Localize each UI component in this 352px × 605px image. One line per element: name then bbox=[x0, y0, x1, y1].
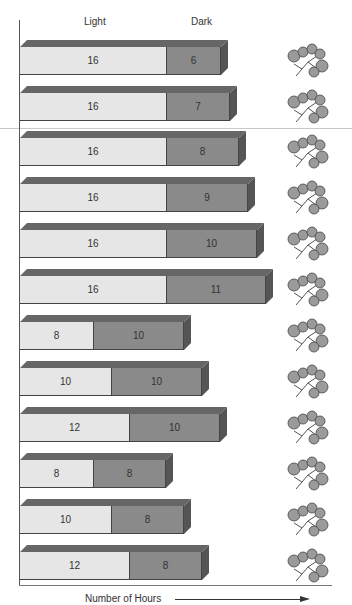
plant-icon bbox=[286, 225, 330, 263]
bar-front: 168 bbox=[20, 138, 239, 166]
light-segment: 16 bbox=[20, 138, 166, 166]
bar-side-face bbox=[248, 177, 256, 213]
bar-front: 128 bbox=[20, 552, 202, 580]
bar-front: 810 bbox=[20, 322, 184, 350]
header-dark: Dark bbox=[191, 16, 212, 27]
dark-segment: 10 bbox=[93, 322, 184, 350]
bar-top-face bbox=[20, 131, 246, 138]
bar-front: 167 bbox=[20, 93, 230, 121]
dark-segment: 7 bbox=[166, 93, 230, 121]
header-light: Light bbox=[84, 16, 106, 27]
bar-top-face bbox=[20, 499, 191, 506]
dark-segment: 9 bbox=[166, 184, 248, 212]
dark-segment: 10 bbox=[166, 230, 257, 258]
plant-icon bbox=[286, 317, 330, 355]
light-segment: 16 bbox=[20, 93, 166, 121]
bar-front: 1010 bbox=[20, 368, 202, 396]
arrow-right-icon bbox=[300, 596, 310, 602]
dark-segment: 11 bbox=[166, 276, 266, 304]
plant-icon bbox=[286, 88, 330, 126]
dark-segment: 6 bbox=[166, 47, 221, 75]
plant-icon bbox=[286, 179, 330, 217]
light-segment: 12 bbox=[20, 414, 129, 442]
light-segment: 16 bbox=[20, 230, 166, 258]
light-segment: 8 bbox=[20, 460, 93, 488]
bar-top-face bbox=[20, 223, 264, 230]
bar-top-face bbox=[20, 361, 209, 368]
bar-side-face bbox=[239, 131, 247, 167]
plant-icon bbox=[286, 547, 330, 585]
bar-side-face bbox=[266, 269, 274, 305]
light-segment: 16 bbox=[20, 276, 166, 304]
light-segment: 16 bbox=[20, 47, 166, 75]
dark-segment: 8 bbox=[129, 552, 202, 580]
bar-side-face bbox=[202, 361, 210, 397]
plant-icon bbox=[286, 409, 330, 447]
bar-side-face bbox=[184, 499, 192, 535]
bar-top-face bbox=[20, 407, 227, 414]
light-segment: 10 bbox=[20, 368, 111, 396]
scan-line bbox=[0, 128, 352, 129]
bar-side-face bbox=[166, 453, 174, 489]
light-segment: 12 bbox=[20, 552, 129, 580]
bar-side-face bbox=[257, 223, 265, 259]
bar-side-face bbox=[221, 40, 229, 76]
bar-top-face bbox=[20, 40, 228, 47]
dark-segment: 8 bbox=[93, 460, 166, 488]
arrow-line bbox=[175, 599, 305, 600]
light-segment: 10 bbox=[20, 506, 111, 534]
bar-top-face bbox=[20, 269, 273, 276]
bar-front: 1210 bbox=[20, 414, 220, 442]
bar-front: 1610 bbox=[20, 230, 257, 258]
plant-icon bbox=[286, 42, 330, 80]
plant-icon bbox=[286, 271, 330, 309]
dark-segment: 10 bbox=[129, 414, 220, 442]
light-segment: 8 bbox=[20, 322, 93, 350]
dark-segment: 10 bbox=[111, 368, 202, 396]
plant-icon bbox=[286, 501, 330, 539]
plant-icon bbox=[286, 363, 330, 401]
bar-top-face bbox=[20, 177, 255, 184]
bar-front: 108 bbox=[20, 506, 184, 534]
bar-top-face bbox=[20, 545, 209, 552]
bar-side-face bbox=[230, 86, 238, 122]
bar-front: 166 bbox=[20, 47, 221, 75]
bar-side-face bbox=[184, 315, 192, 351]
bar-top-face bbox=[20, 453, 173, 460]
bar-front: 88 bbox=[20, 460, 166, 488]
dark-segment: 8 bbox=[111, 506, 184, 534]
plant-icon bbox=[286, 455, 330, 493]
bar-side-face bbox=[202, 545, 210, 581]
bar-top-face bbox=[20, 315, 191, 322]
bar-side-face bbox=[220, 407, 228, 443]
dark-segment: 8 bbox=[166, 138, 239, 166]
plant-icon bbox=[286, 133, 330, 171]
light-segment: 16 bbox=[20, 184, 166, 212]
bar-front: 169 bbox=[20, 184, 248, 212]
bar-front: 1611 bbox=[20, 276, 266, 304]
x-axis-label: Number of Hours bbox=[85, 593, 161, 604]
bar-top-face bbox=[20, 86, 237, 93]
x-axis bbox=[19, 585, 332, 586]
